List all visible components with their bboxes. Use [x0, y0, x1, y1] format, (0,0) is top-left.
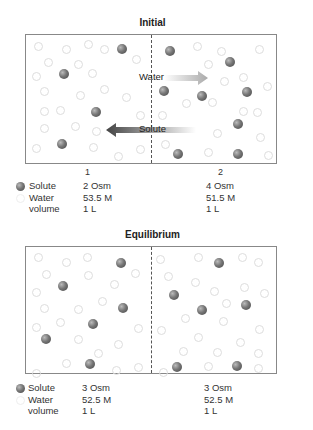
solute-particle: [117, 44, 127, 54]
water-molecule: [40, 124, 49, 133]
solute-legend-icon: [16, 384, 25, 393]
solute-particle: [172, 362, 182, 372]
water-molecule: [161, 140, 170, 149]
water-molecule: [204, 362, 213, 371]
water-value: 52.5 M: [204, 394, 233, 406]
water-value: 51.5 M: [206, 192, 235, 204]
water-molecule: [238, 253, 247, 262]
water-molecule: [132, 55, 141, 64]
water-molecule: [219, 317, 228, 326]
water-molecule: [134, 363, 143, 372]
water-molecule: [193, 42, 202, 51]
water-molecule: [164, 272, 173, 281]
equilibrium-legend-labels: Solute Water volume: [28, 382, 59, 417]
water-molecule: [74, 335, 83, 344]
water-molecule: [32, 72, 41, 81]
water-molecule: [40, 304, 49, 313]
legend-volume-label: volume: [28, 405, 59, 417]
water-molecule: [213, 348, 222, 357]
solute-value: 4 Osm: [206, 180, 235, 192]
water-molecule: [83, 253, 92, 262]
water-molecule: [204, 60, 213, 69]
legend-solute-label: Solute: [29, 180, 60, 192]
water-molecule: [100, 85, 109, 94]
water-molecule: [136, 145, 145, 154]
water-molecule: [88, 69, 97, 78]
solute-legend-icon: [16, 182, 25, 191]
water-molecule: [213, 129, 222, 138]
solute-particle: [173, 149, 183, 159]
water-value: 53.5 M: [83, 192, 112, 204]
water-molecule: [131, 269, 140, 278]
solute-particle: [85, 359, 95, 369]
water-molecule: [222, 299, 231, 308]
equilibrium-compartment-2-values: 3 Osm 52.5 M 1 L: [204, 382, 233, 417]
solute-particle: [233, 119, 243, 129]
water-molecule: [156, 255, 165, 264]
solute-particle: [116, 258, 126, 268]
water-molecule: [114, 340, 123, 349]
water-molecule: [255, 325, 264, 334]
water-molecule: [112, 366, 121, 375]
water-legend-icon: [16, 396, 25, 405]
water-molecule: [236, 338, 245, 347]
water-molecule: [92, 127, 101, 136]
water-molecule: [100, 45, 109, 54]
solute-particle: [59, 69, 69, 79]
water-molecule: [239, 73, 248, 82]
water-molecule: [56, 106, 65, 115]
solute-particle: [58, 281, 68, 291]
water-molecule: [62, 258, 71, 267]
water-molecule: [255, 45, 264, 54]
volume-value: 1 L: [206, 203, 235, 215]
compartment-1-label: 1: [85, 167, 90, 177]
water-molecule: [264, 151, 273, 160]
solute-particle: [91, 107, 101, 117]
initial-legend-labels: Solute Water volume: [29, 180, 60, 215]
water-molecule: [74, 60, 83, 69]
water-molecule: [34, 253, 43, 262]
water-molecule: [62, 45, 71, 54]
water-molecule: [179, 347, 188, 356]
water-molecule: [110, 280, 119, 289]
water-molecule: [44, 58, 53, 67]
water-molecule: [253, 108, 262, 117]
water-arrow-right-icon: [164, 71, 208, 85]
initial-compartment-1-values: 2 Osm 53.5 M 1 L: [83, 180, 112, 215]
solute-particle: [197, 305, 207, 315]
solute-particle: [241, 300, 251, 310]
water-molecule: [114, 152, 123, 161]
water-molecule: [239, 107, 248, 116]
water-molecule: [32, 323, 41, 332]
solute-particle: [197, 91, 207, 101]
legend-water-label: Water: [29, 192, 60, 204]
water-molecule: [254, 364, 263, 373]
water-molecule: [254, 258, 263, 267]
water-molecule: [217, 47, 226, 56]
membrane-divider: [151, 35, 152, 163]
water-molecule: [71, 122, 80, 131]
solute-particle: [57, 139, 67, 149]
water-molecule: [157, 326, 166, 335]
membrane-divider: [151, 247, 152, 373]
water-molecule: [158, 111, 167, 120]
water-molecule: [220, 77, 229, 86]
water-molecule: [194, 253, 203, 262]
solute-particle: [232, 361, 242, 371]
volume-value: 1 L: [83, 203, 112, 215]
solute-particle: [165, 46, 175, 56]
water-molecule: [76, 91, 85, 100]
equilibrium-compartment-1-values: 3 Osm 52.5 M 1 L: [82, 382, 111, 417]
water-molecule: [254, 349, 263, 358]
solute-particle: [233, 149, 243, 159]
compartment-2-label: 2: [218, 167, 223, 177]
water-molecule: [42, 270, 51, 279]
water-molecule: [89, 143, 98, 152]
initial-title: Initial: [0, 17, 305, 28]
water-molecule: [263, 82, 272, 91]
water-molecule: [84, 40, 93, 49]
solute-particle: [159, 86, 169, 96]
water-value: 52.5 M: [82, 394, 111, 406]
water-molecule: [136, 111, 145, 120]
equilibrium-title: Equilibrium: [0, 229, 305, 240]
